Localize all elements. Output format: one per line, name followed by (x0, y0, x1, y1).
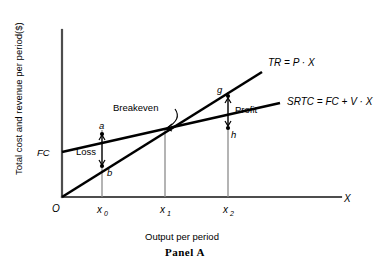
label-point-h: h (231, 129, 236, 140)
marker-point-h (226, 126, 230, 130)
srtc-equation-label: SRTC = FC + V · X (287, 96, 373, 107)
tick-x2-sub: 2 (229, 210, 234, 217)
profit-bracket (225, 98, 231, 126)
tick-x1-sub: 1 (167, 210, 171, 217)
tr-equation-label: TR = P · X (268, 57, 315, 68)
tick-x2-base: x (222, 204, 229, 215)
fc-label: FC (37, 147, 50, 158)
loss-label: Loss (76, 146, 96, 157)
x-axis-label: Output per period (145, 231, 219, 242)
breakeven-label: Breakeven (113, 102, 158, 113)
marker-point-a (100, 132, 104, 136)
marker-point-g (226, 94, 230, 98)
tick-x1-base: x (159, 204, 166, 215)
loss-bracket (99, 135, 105, 165)
x-axis-symbol: X (343, 193, 351, 204)
figure-caption: Panel A (165, 246, 205, 258)
tick-label-x0: x 0 (96, 204, 108, 217)
label-point-b: b (107, 167, 112, 178)
profit-label: Profit (235, 104, 258, 115)
origin-label: O (52, 203, 60, 214)
label-point-g: g (217, 84, 223, 95)
economics-breakeven-chart: Total cost and revenue per period($) FC … (0, 0, 380, 273)
tick-x0-sub: 0 (104, 210, 108, 217)
marker-point-b (100, 164, 104, 168)
tick-label-x1: x 1 (159, 204, 171, 217)
figure-panel-a: Total cost and revenue per period($) FC … (0, 0, 380, 273)
label-point-a: a (99, 120, 104, 131)
y-axis-label: Total cost and revenue per period($) (13, 22, 24, 175)
tick-label-x2: x 2 (222, 204, 234, 217)
tick-x0-base: x (96, 204, 103, 215)
